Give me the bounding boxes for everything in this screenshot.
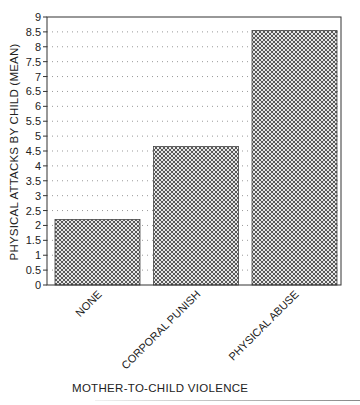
bar-none — [55, 219, 140, 285]
bar-chart: 00.511.522.533.544.555.566.577.588.59 NO… — [0, 0, 360, 405]
y-tick-label: 6.5 — [26, 85, 41, 97]
bottom-rule — [95, 400, 360, 401]
y-tick-label: 6 — [35, 100, 41, 112]
y-tick-label: 8.5 — [26, 26, 41, 38]
y-tick-label: 5 — [35, 130, 41, 142]
y-tick-label: 2 — [35, 219, 41, 231]
y-tick-label: 0.5 — [26, 264, 41, 276]
x-category-label: CORPORAL PUNISH — [119, 288, 202, 371]
bars — [55, 30, 337, 285]
y-tick-label: 4 — [35, 160, 41, 172]
y-tick-label: 3 — [35, 190, 41, 202]
y-tick-label: 3.5 — [26, 175, 41, 187]
y-tick-label: 1 — [35, 249, 41, 261]
x-axis-categories: NONECORPORAL PUNISHPHYSICAL ABUSE — [73, 288, 301, 371]
y-tick-label: 1.5 — [26, 234, 41, 246]
x-axis-title: MOTHER-TO-CHILD VIOLENCE — [72, 382, 248, 394]
bar-physical-abuse — [252, 30, 337, 285]
y-tick-label: 7 — [35, 71, 41, 83]
y-tick-label: 8 — [35, 41, 41, 53]
y-tick-label: 7.5 — [26, 56, 41, 68]
x-category-label: NONE — [73, 288, 104, 319]
y-tick-label: 4.5 — [26, 145, 41, 157]
y-tick-label: 2.5 — [26, 205, 41, 217]
x-category-label: PHYSICAL ABUSE — [226, 288, 301, 363]
y-tick-label: 0 — [35, 279, 41, 291]
y-tick-label: 9 — [35, 11, 41, 23]
y-axis-ticks: 00.511.522.533.544.555.566.577.588.59 — [26, 11, 47, 291]
y-tick-label: 5.5 — [26, 115, 41, 127]
bar-corporal-punish — [154, 147, 239, 285]
y-axis-title: PHYSICAL ATTACKS BY CHILD (MEAN) — [8, 44, 20, 261]
